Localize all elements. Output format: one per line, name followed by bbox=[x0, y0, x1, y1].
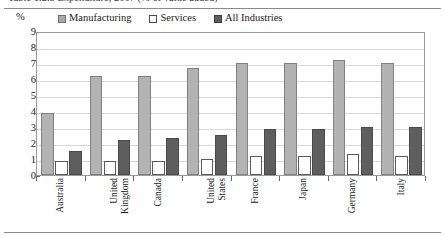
bar bbox=[104, 161, 117, 175]
bar bbox=[152, 161, 165, 175]
legend-label-services: Services bbox=[160, 13, 196, 24]
legend-label-all-industries: All Industries bbox=[225, 13, 282, 24]
bar-group bbox=[41, 33, 82, 175]
y-tick-label-5: 5 bbox=[14, 91, 36, 102]
bar bbox=[69, 151, 82, 175]
x-tick-mark bbox=[36, 176, 37, 181]
y-tick-label-4: 4 bbox=[14, 107, 36, 118]
x-axis-label: United Kingdom bbox=[109, 178, 159, 232]
bar bbox=[236, 63, 249, 175]
x-axis-label: Germany bbox=[347, 178, 397, 232]
bar bbox=[250, 156, 263, 175]
y-tick-label-6: 6 bbox=[14, 75, 36, 86]
bar bbox=[361, 127, 374, 175]
bar-group bbox=[138, 33, 179, 175]
bar bbox=[187, 68, 200, 175]
bar bbox=[298, 156, 311, 175]
bar bbox=[41, 113, 54, 175]
bar bbox=[284, 63, 297, 175]
plot-area bbox=[36, 32, 425, 176]
x-axis-label: Australia bbox=[55, 178, 105, 232]
bar-group bbox=[333, 33, 374, 175]
x-axis-label: France bbox=[250, 178, 300, 232]
bar bbox=[201, 159, 214, 175]
clipped-caption: Table 1.2.3 Expenditure, 2007 (% of valu… bbox=[8, 0, 258, 4]
bar bbox=[215, 135, 228, 175]
legend-item-all-industries[interactable]: All Industries bbox=[214, 13, 282, 24]
y-tick-label-3: 3 bbox=[14, 123, 36, 134]
bar bbox=[333, 60, 346, 175]
chart-figure: Table 1.2.3 Expenditure, 2007 (% of valu… bbox=[0, 0, 445, 237]
x-axis-label: Canada bbox=[153, 178, 203, 232]
bar bbox=[264, 129, 277, 175]
legend-swatch-manufacturing-icon bbox=[58, 15, 66, 23]
x-axis-label: Italy bbox=[396, 178, 445, 232]
x-axis-label: Japan bbox=[298, 178, 348, 232]
y-tick-label-9: 9 bbox=[14, 27, 36, 38]
bar bbox=[118, 140, 131, 175]
bar bbox=[166, 138, 179, 175]
bar bbox=[55, 161, 68, 175]
bottom-divider-rule bbox=[4, 232, 441, 233]
y-tick-label-0: 0 bbox=[14, 171, 36, 182]
bar-group bbox=[381, 33, 422, 175]
bar bbox=[347, 154, 360, 175]
bar-group bbox=[187, 33, 228, 175]
bar bbox=[381, 63, 394, 175]
bar-group bbox=[236, 33, 277, 175]
top-divider-rule bbox=[4, 8, 441, 9]
y-tick-label-7: 7 bbox=[14, 59, 36, 70]
bar-group bbox=[284, 33, 325, 175]
bar bbox=[409, 127, 422, 175]
bar bbox=[90, 76, 103, 175]
y-tick-label-2: 2 bbox=[14, 139, 36, 150]
x-axis-label: United States bbox=[206, 178, 256, 232]
chart-legend: Manufacturing Services All Industries bbox=[58, 12, 282, 25]
bar bbox=[312, 129, 325, 175]
bar bbox=[395, 156, 408, 175]
legend-item-manufacturing[interactable]: Manufacturing bbox=[58, 13, 131, 24]
y-tick-label-1: 1 bbox=[14, 155, 36, 166]
y-tick-label-8: 8 bbox=[14, 43, 36, 54]
legend-swatch-all-industries-icon bbox=[214, 15, 222, 23]
legend-swatch-services-icon bbox=[149, 15, 157, 23]
legend-label-manufacturing: Manufacturing bbox=[69, 13, 131, 24]
y-axis-unit-label: % bbox=[16, 12, 25, 23]
y-axis-tick-labels: 0123456789 bbox=[8, 32, 36, 176]
bar bbox=[138, 76, 151, 175]
bar-group bbox=[90, 33, 131, 175]
legend-item-services[interactable]: Services bbox=[149, 13, 196, 24]
